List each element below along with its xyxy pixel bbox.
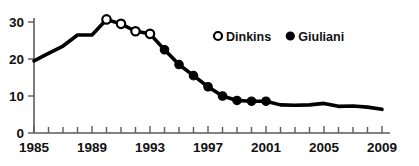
y-tick-labels: 0102030 <box>9 15 24 141</box>
x-tick-label: 1997 <box>193 140 223 155</box>
y-tick-label: 10 <box>9 89 24 104</box>
giuliani-marker <box>160 46 168 54</box>
y-tick-marks <box>28 22 34 133</box>
legend-label-dinkins: Dinkins <box>226 30 271 44</box>
legend-marker-dinkins <box>214 32 222 40</box>
giuliani-marker <box>204 83 212 91</box>
giuliani-marker <box>175 60 183 68</box>
x-tick-label: 2009 <box>367 140 397 155</box>
x-tick-labels: 1985198919931997200120052009 <box>19 140 397 155</box>
y-tick-label: 20 <box>9 52 24 67</box>
giuliani-marker <box>218 92 226 100</box>
y-tick-label: 0 <box>16 126 24 141</box>
x-axis <box>34 126 390 133</box>
dinkins-marker <box>131 27 139 35</box>
x-tick-label: 2001 <box>251 140 282 155</box>
x-tick-label: 2005 <box>309 140 340 155</box>
x-tick-label: 1989 <box>77 140 107 155</box>
x-tick-label: 1993 <box>135 140 166 155</box>
chart-legend: DinkinsGiuliani <box>214 30 344 44</box>
x-tick-label: 1985 <box>19 140 50 155</box>
dinkins-marker <box>117 20 125 28</box>
giuliani-marker <box>189 71 197 79</box>
y-axis <box>28 18 34 133</box>
giuliani-marker <box>247 97 255 105</box>
chart-container: 0102030 1985198919931997200120052009 Din… <box>0 0 419 166</box>
line-chart: 0102030 1985198919931997200120052009 Din… <box>0 0 419 166</box>
giuliani-markers <box>160 46 270 106</box>
x-tick-marks <box>34 126 382 133</box>
y-tick-label: 30 <box>9 15 24 30</box>
dinkins-marker <box>146 30 154 38</box>
dinkins-marker <box>102 15 110 23</box>
legend-marker-giuliani <box>286 32 294 40</box>
legend-label-giuliani: Giuliani <box>298 30 344 44</box>
giuliani-marker <box>233 96 241 104</box>
giuliani-marker <box>262 97 270 105</box>
